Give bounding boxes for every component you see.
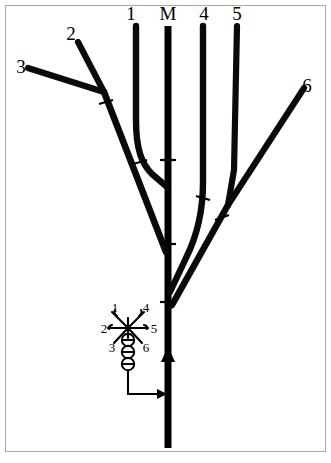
branching-diagram-canvas: 1 M 4 5 2 3 6 1 2 3 4 5 6 [0, 0, 331, 463]
figure-root: 1 M 4 5 2 3 6 1 2 3 4 5 6 [0, 0, 331, 463]
label-branch-6: 6 [302, 75, 312, 96]
label-inset-ray-3: 3 [109, 340, 116, 355]
label-branch-5: 5 [232, 3, 242, 24]
stem-growth-arrowhead [161, 346, 175, 362]
label-inset-ray-2: 2 [101, 321, 108, 336]
branch-5 [228, 26, 237, 205]
label-branch-M: M [160, 3, 177, 24]
branch-6 [228, 88, 304, 205]
label-inset-ray-1: 1 [112, 300, 119, 315]
label-inset-ray-4: 4 [143, 300, 150, 315]
label-inset-ray-5: 5 [151, 321, 158, 336]
floral-inset [108, 310, 167, 399]
label-branch-1: 1 [126, 3, 136, 24]
label-inset-ray-6: 6 [143, 340, 150, 355]
inset-ray-4-curl [139, 310, 142, 316]
label-branch-4: 4 [199, 3, 209, 24]
label-branch-2: 2 [66, 23, 76, 44]
label-branch-3: 3 [16, 56, 26, 77]
